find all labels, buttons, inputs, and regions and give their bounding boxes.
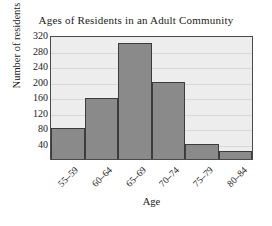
y-tick-label: 240 — [33, 62, 48, 72]
bar-cell — [85, 37, 119, 159]
plot-area — [50, 36, 253, 160]
y-axis-tick-labels: 4080120160200240280320 — [16, 36, 48, 160]
bar-series — [51, 37, 252, 159]
chart-title: Ages of Residents in an Adult Community — [0, 14, 272, 26]
y-tick-label: 120 — [33, 109, 48, 119]
y-tick-label: 40 — [38, 140, 48, 150]
bar — [51, 128, 85, 159]
bar-cell — [152, 37, 186, 159]
histogram-figure: Ages of Residents in an Adult Community … — [0, 0, 272, 226]
bar-cell — [118, 37, 152, 159]
bar — [118, 43, 152, 159]
bar — [185, 144, 219, 159]
bar-cell — [219, 37, 253, 159]
y-tick-label: 320 — [33, 31, 48, 41]
y-tick-label: 200 — [33, 78, 48, 88]
bar-cell — [185, 37, 219, 159]
y-tick-label: 80 — [38, 124, 48, 134]
bar — [85, 98, 119, 159]
y-tick-label: 160 — [33, 93, 48, 103]
x-axis-label: Age — [50, 196, 253, 207]
bar — [219, 151, 253, 159]
bar — [152, 82, 186, 159]
x-axis-tick-labels: 55–5960–6465–6970–7475–7980–84 — [50, 161, 253, 191]
bar-cell — [51, 37, 85, 159]
y-tick-label: 280 — [33, 47, 48, 57]
